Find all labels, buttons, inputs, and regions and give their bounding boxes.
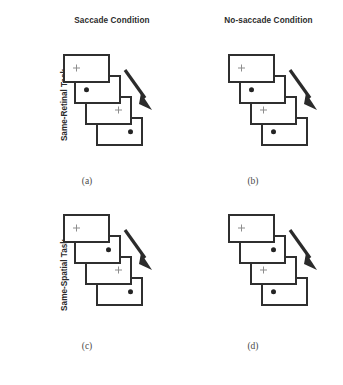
plus-cross-icon xyxy=(260,107,267,114)
panel-a xyxy=(55,48,175,178)
filled-circle-icon xyxy=(128,289,133,294)
filled-circle-icon xyxy=(271,289,276,294)
diagonal-arrow-down-right-icon xyxy=(121,66,157,114)
filled-circle-icon xyxy=(106,247,111,252)
plus-cross-icon xyxy=(73,225,80,232)
diagonal-arrow-down-right-icon xyxy=(286,66,322,114)
filled-circle-icon xyxy=(271,129,276,134)
plus-cross-icon xyxy=(260,267,267,274)
panel-d xyxy=(220,208,340,338)
panel-c xyxy=(55,208,175,338)
diagonal-arrow-down-right-icon xyxy=(286,226,322,274)
filled-circle-icon xyxy=(128,129,133,134)
panel-caption-d: (d) xyxy=(223,341,283,351)
filled-circle-icon xyxy=(84,87,89,92)
plus-cross-icon xyxy=(238,65,245,72)
panel-caption-b: (b) xyxy=(223,176,283,186)
column-heading-no-saccade: No-saccade Condition xyxy=(196,16,341,25)
column-heading-saccade: Saccade Condition xyxy=(42,16,182,25)
diagonal-arrow-down-right-icon xyxy=(121,226,157,274)
stimulus-frame xyxy=(63,214,110,243)
panel-caption-c: (c) xyxy=(57,341,117,351)
stimulus-frame xyxy=(228,54,275,83)
stimulus-frame xyxy=(228,214,275,243)
plus-cross-icon xyxy=(73,65,80,72)
filled-circle-icon xyxy=(249,87,254,92)
stimulus-frame xyxy=(63,54,110,83)
filled-circle-icon xyxy=(271,247,276,252)
panel-caption-a: (a) xyxy=(57,176,117,186)
plus-cross-icon xyxy=(238,225,245,232)
panel-b xyxy=(220,48,340,178)
experiment-design-figure: Saccade Condition No-saccade Condition S… xyxy=(0,0,343,385)
